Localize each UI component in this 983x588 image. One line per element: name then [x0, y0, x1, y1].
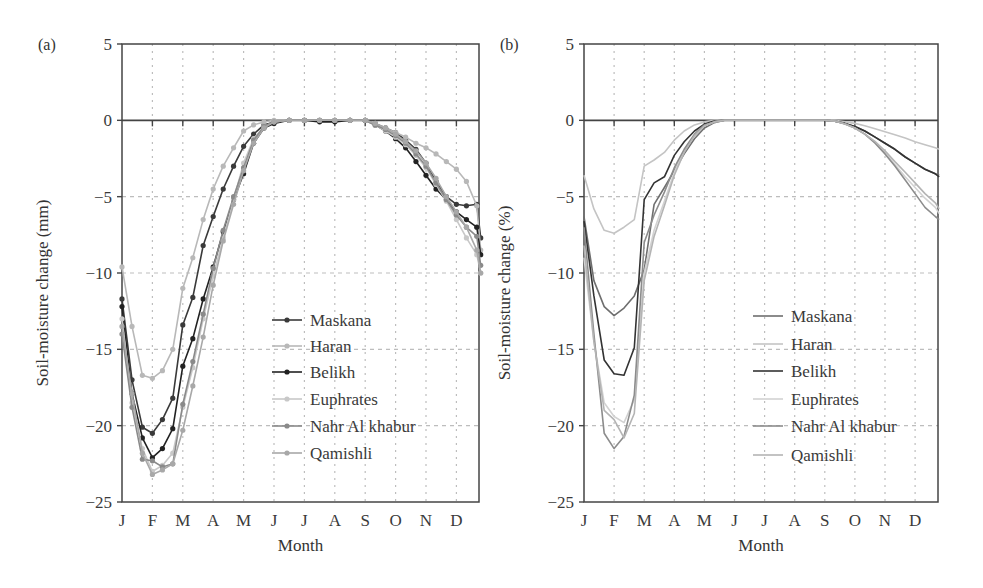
x-tick-label: M — [236, 511, 251, 530]
x-tick-label: D — [909, 511, 921, 530]
legend-item: Nahr Al khabur — [753, 417, 897, 436]
x-tick-label: M — [697, 511, 712, 530]
y-tick-label: −15 — [547, 340, 574, 359]
y-tick-label: −20 — [85, 417, 112, 436]
y-tick-label: −25 — [547, 493, 574, 512]
x-tick-label: S — [360, 511, 369, 530]
legend: MaskanaHaranBelikhEuphratesNahr Al khabu… — [272, 311, 416, 463]
y-axis-title: Soil-moisture change (%) — [495, 206, 514, 381]
legend-item: Qamishli — [272, 444, 373, 463]
x-tick-label: J — [731, 511, 738, 530]
x-tick-label: O — [849, 511, 861, 530]
x-tick-label: J — [271, 511, 278, 530]
y-tick-label: 0 — [104, 111, 113, 130]
y-tick-label: 5 — [566, 35, 575, 54]
panel-label: (b) — [500, 36, 519, 54]
figure: 50−5−10−15−20−25JFMAMJJASONDMonthSoil-mo… — [0, 0, 983, 588]
legend-label: Qamishli — [791, 446, 854, 465]
x-tick-label: J — [581, 511, 588, 530]
legend-item: Haran — [272, 337, 352, 356]
legend-label: Belikh — [310, 363, 356, 382]
x-tick-label: A — [329, 511, 342, 530]
x-tick-label: N — [879, 511, 891, 530]
x-tick-label: F — [148, 511, 157, 530]
x-tick-label: A — [789, 511, 802, 530]
y-axis-title: Soil-moisture change (mm) — [33, 200, 52, 387]
legend-item: Qamishli — [753, 446, 854, 465]
legend-label: Euphrates — [791, 390, 859, 409]
legend-label: Maskana — [310, 311, 372, 330]
y-tick-label: −10 — [85, 264, 112, 283]
y-tick-label: −5 — [94, 188, 112, 207]
gridlines — [122, 44, 479, 502]
x-tick-label: F — [609, 511, 618, 530]
legend-item: Belikh — [272, 363, 356, 382]
x-tick-label: D — [450, 511, 462, 530]
legend-label: Nahr Al khabur — [791, 417, 897, 436]
x-tick-label: A — [668, 511, 681, 530]
panel-a: 50−5−10−15−20−25JFMAMJJASONDMonthSoil-mo… — [33, 35, 483, 555]
x-tick-label: J — [301, 511, 308, 530]
legend-label: Qamishli — [310, 444, 373, 463]
y-tick-label: −20 — [547, 417, 574, 436]
y-tick-label: 5 — [104, 35, 113, 54]
series-maskana — [119, 118, 483, 436]
series-qamishli — [584, 120, 939, 438]
legend-item: Euphrates — [753, 390, 859, 409]
x-tick-label: J — [761, 511, 768, 530]
legend-item: Euphrates — [272, 390, 378, 409]
legend-item: Maskana — [272, 311, 372, 330]
legend-label: Haran — [310, 337, 352, 356]
x-tick-label: A — [207, 511, 220, 530]
x-axis-title: Month — [278, 536, 324, 555]
panel-label: (a) — [38, 36, 56, 54]
x-tick-label: O — [389, 511, 401, 530]
y-tick-label: −5 — [556, 188, 574, 207]
legend-label: Nahr Al khabur — [310, 417, 416, 436]
y-tick-label: 0 — [566, 111, 575, 130]
panel-b: 50−5−10−15−20−25JFMAMJJASONDMonthSoil-mo… — [495, 35, 939, 555]
legend-label: Maskana — [791, 307, 853, 326]
x-tick-label: S — [820, 511, 829, 530]
x-tick-label: N — [420, 511, 432, 530]
series-lines — [119, 118, 483, 477]
legend-item: Belikh — [753, 362, 837, 381]
x-tick-label: J — [119, 511, 126, 530]
x-tick-label: M — [175, 511, 190, 530]
series-maskana — [584, 120, 939, 315]
legend-label: Belikh — [791, 362, 837, 381]
series-haran — [119, 118, 483, 381]
x-tick-label: M — [637, 511, 652, 530]
legend-label: Haran — [791, 335, 833, 354]
legend-item: Maskana — [753, 307, 853, 326]
legend-item: Nahr Al khabur — [272, 417, 416, 436]
x-axis-title: Month — [738, 536, 784, 555]
legend-item: Haran — [753, 335, 833, 354]
y-tick-label: −15 — [85, 340, 112, 359]
legend-label: Euphrates — [310, 390, 378, 409]
legend: MaskanaHaranBelikhEuphratesNahr Al khabu… — [753, 307, 897, 465]
y-tick-label: −25 — [85, 493, 112, 512]
y-tick-label: −10 — [547, 264, 574, 283]
series-haran — [584, 120, 939, 233]
